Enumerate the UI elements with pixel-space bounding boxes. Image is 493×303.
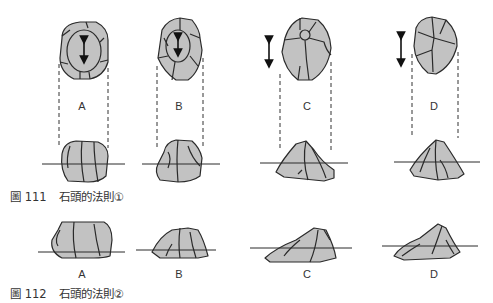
direction-arrows xyxy=(84,36,401,64)
label-d-fig111: D xyxy=(430,100,438,112)
stone-b-top-view xyxy=(158,18,202,80)
projection-guides xyxy=(59,52,458,150)
stone-d-side-view xyxy=(410,140,464,180)
caption-fig112: 圖 112石頭的法則② xyxy=(10,285,124,301)
stone-a-wide-side-view xyxy=(52,222,112,258)
label-b-fig111: B xyxy=(175,100,182,112)
stone-d-top-view xyxy=(414,17,457,74)
caption-fig111: 圖 111石頭的法則① xyxy=(10,188,124,204)
label-b-fig112: B xyxy=(175,268,182,280)
label-a-fig112: A xyxy=(78,268,85,280)
label-d-fig112: D xyxy=(430,268,438,280)
caption-title: 石頭的法則① xyxy=(59,190,124,204)
label-c-fig111: C xyxy=(303,100,311,112)
stone-a-side-view xyxy=(62,141,108,182)
stone-b-side-view xyxy=(156,140,202,182)
stone-c-top-view xyxy=(282,18,331,80)
caption-number: 圖 112 xyxy=(10,287,47,301)
stone-rules-illustration xyxy=(0,0,493,303)
stone-b-wide-side-view xyxy=(152,228,208,258)
label-a-fig111: A xyxy=(78,100,85,112)
stone-c-side-view xyxy=(276,141,334,181)
caption-number: 圖 111 xyxy=(10,190,47,204)
stone-d-wide-side-view xyxy=(394,224,460,260)
caption-title: 石頭的法則② xyxy=(59,287,124,301)
label-c-fig112: C xyxy=(303,268,311,280)
stone-c-wide-side-view xyxy=(265,228,336,262)
